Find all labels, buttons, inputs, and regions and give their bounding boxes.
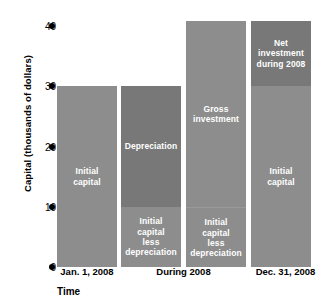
segment-label: Initial capital: [71, 166, 103, 187]
segment-depreciation: Depreciation: [121, 86, 181, 207]
segment-label-line: capital: [190, 228, 242, 238]
segment-label-line: Initial: [125, 216, 177, 226]
segment-label-line: Initial: [73, 166, 101, 176]
segment-label-line: Depreciation: [125, 141, 178, 151]
segment-label-line: capital: [125, 227, 177, 237]
segment-label: Net investment during 2008: [255, 38, 308, 69]
segment-label-line: Gross: [193, 104, 239, 114]
segment-label-line: capital: [73, 177, 101, 187]
plot-area: Initial capital Depreciation Initial cap…: [0, 0, 325, 304]
segment-label: Gross investment: [191, 104, 241, 125]
segment-initial-capital: Initial capital: [251, 86, 311, 267]
bar-during-2008-depreciation: Depreciation Initial capital less deprec…: [121, 86, 181, 267]
segment-label-line: less: [125, 237, 177, 247]
segment-label-line: depreciation: [190, 248, 242, 258]
segment-label-line: less: [190, 238, 242, 248]
segment-gross-investment: Gross investment: [186, 21, 246, 207]
segment-label-line: during 2008: [257, 59, 306, 69]
segment-label: Initial capital: [265, 166, 297, 187]
segment-label-line: Initial: [267, 166, 295, 176]
bar-during-2008-gross-investment: Gross investment Initial capital less de…: [186, 21, 246, 267]
segment-label-line: investment: [193, 114, 239, 124]
bar-jan-1-2008: Initial capital: [57, 86, 117, 267]
segment-label-line: capital: [267, 177, 295, 187]
x-tick-jan-1-2008: Jan. 1, 2008: [57, 266, 117, 277]
segment-label: Initial capital less depreciation: [123, 216, 179, 257]
segment-label-line: Initial: [190, 217, 242, 227]
segment-initial-capital-less-depreciation: Initial capital less depreciation: [186, 207, 246, 267]
segment-label-line: depreciation: [125, 247, 177, 257]
bar-dec-31-2008: Net investment during 2008 Initial capit…: [251, 21, 311, 267]
segment-label: Initial capital less depreciation: [188, 217, 244, 258]
segment-net-investment: Net investment during 2008: [251, 21, 311, 86]
segment-label: Depreciation: [123, 141, 180, 151]
x-tick-during-2008: During 2008: [121, 266, 246, 277]
segment-initial-capital: Initial capital: [57, 86, 117, 267]
segment-label-line: investment: [257, 48, 306, 58]
x-tick-dec-31-2008: Dec. 31, 2008: [246, 266, 325, 277]
segment-label-line: Net: [257, 38, 306, 48]
segment-initial-capital-less-depreciation: Initial capital less depreciation: [121, 207, 181, 267]
capital-bar-chart: Capital (thousands of dollars) Time 40 3…: [0, 0, 325, 304]
